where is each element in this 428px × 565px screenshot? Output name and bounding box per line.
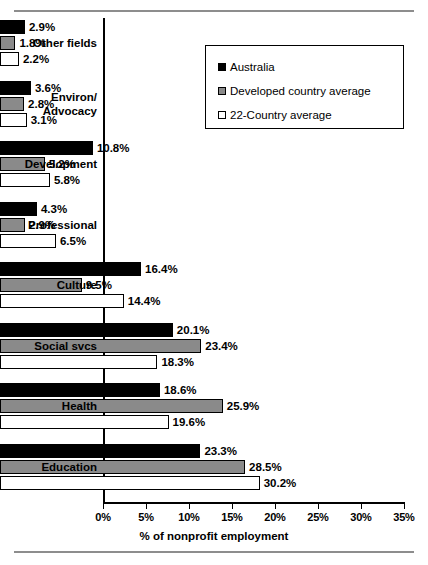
bar-row: 20.1% xyxy=(0,323,301,337)
x-tick xyxy=(232,502,233,509)
legend-label: 22-Country average xyxy=(230,109,332,121)
x-tick xyxy=(146,502,147,509)
bar-value-label: 30.2% xyxy=(260,477,297,489)
bar-row: 19.6% xyxy=(0,415,301,429)
bar xyxy=(0,202,37,216)
bar xyxy=(0,20,25,34)
bar-value-label: 20.1% xyxy=(173,324,210,336)
bar xyxy=(0,323,173,337)
bar-row: 4.3% xyxy=(0,202,301,216)
x-tick xyxy=(404,502,405,509)
x-tick xyxy=(275,502,276,509)
legend-item-developed-country-average: Developed country average xyxy=(218,79,403,103)
x-tick xyxy=(189,502,190,509)
category-label: Social svcs xyxy=(2,339,102,353)
bar xyxy=(0,173,50,187)
bar xyxy=(0,383,160,397)
category-label: Other fields xyxy=(2,36,102,50)
bar-value-label: 23.4% xyxy=(201,340,238,352)
category-label: Education xyxy=(2,460,102,474)
category-label: Environ/Advocacy xyxy=(2,90,102,118)
bar-value-label: 23.3% xyxy=(200,445,237,457)
bar-row: 5.8% xyxy=(0,173,301,187)
x-tick-label: 10% xyxy=(169,511,209,523)
chart-legend: Australia Developed country average 22-C… xyxy=(205,45,404,129)
bar-row: 2.9% xyxy=(0,20,301,34)
bar-value-label: 18.3% xyxy=(157,356,194,368)
bar-value-label: 16.4% xyxy=(141,263,178,275)
bar-row: 23.3% xyxy=(0,444,301,458)
bar-value-label: 18.6% xyxy=(160,384,197,396)
category-label: Culture xyxy=(2,278,102,292)
bar-row: 30.2% xyxy=(0,476,301,490)
bar-row: 16.4% xyxy=(0,262,301,276)
x-tick xyxy=(361,502,362,509)
category-label: Development xyxy=(2,157,102,171)
bar-value-label: 14.4% xyxy=(124,295,161,307)
legend-item-22-country-average: 22-Country average xyxy=(218,103,403,127)
x-axis-title: % of nonprofit employment xyxy=(0,530,428,542)
bar-row: 10.8% xyxy=(0,141,301,155)
legend-item-australia: Australia xyxy=(218,55,403,79)
bar xyxy=(0,234,56,248)
bar-value-label: 5.8% xyxy=(50,174,80,186)
bar xyxy=(0,294,124,308)
top-divider-rule xyxy=(14,10,414,12)
bar xyxy=(0,262,141,276)
bar-row: 14.4% xyxy=(0,294,301,308)
bar xyxy=(0,355,157,369)
x-axis-line xyxy=(103,502,405,504)
bar-value-label: 25.9% xyxy=(223,400,260,412)
x-tick-label: 35% xyxy=(384,511,424,523)
bar-row: 18.3% xyxy=(0,355,301,369)
legend-label: Australia xyxy=(230,61,275,73)
black-square-icon xyxy=(218,63,226,71)
x-tick xyxy=(318,502,319,509)
bar-value-label: 28.5% xyxy=(245,461,282,473)
bar-row: 18.6% xyxy=(0,383,301,397)
gray-square-icon xyxy=(218,87,226,95)
bar-row: 6.5% xyxy=(0,234,301,248)
white-square-icon xyxy=(218,111,226,119)
bar-value-label: 6.5% xyxy=(56,235,86,247)
x-tick-label: 0% xyxy=(83,511,123,523)
legend-label: Developed country average xyxy=(230,85,371,97)
bar xyxy=(0,141,93,155)
bar xyxy=(0,415,169,429)
bar xyxy=(0,476,260,490)
x-tick-label: 20% xyxy=(255,511,295,523)
bar-value-label: 2.2% xyxy=(19,53,49,65)
bar-value-label: 10.8% xyxy=(93,142,130,154)
bar xyxy=(0,52,19,66)
x-tick-label: 15% xyxy=(212,511,252,523)
category-label: Professional xyxy=(2,218,102,232)
bar-chart-figure: 0%5%10%15%20%25%30%35% 2.9%1.8%2.2%3.6%2… xyxy=(0,0,428,565)
x-tick xyxy=(103,502,104,509)
bar xyxy=(0,444,200,458)
bar-value-label: 19.6% xyxy=(169,416,206,428)
x-tick-label: 5% xyxy=(126,511,166,523)
bottom-divider-rule xyxy=(14,551,414,553)
bar-value-label: 2.9% xyxy=(25,21,55,33)
category-label: Health xyxy=(2,399,102,413)
x-tick-label: 25% xyxy=(298,511,338,523)
x-tick-label: 30% xyxy=(341,511,381,523)
bar-value-label: 4.3% xyxy=(37,203,67,215)
